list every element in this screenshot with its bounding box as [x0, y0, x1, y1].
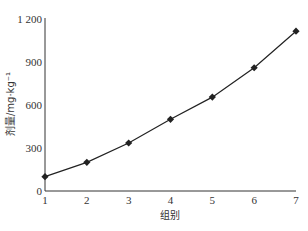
- diamond-marker: [83, 159, 90, 166]
- diamond-marker: [41, 173, 48, 180]
- x-tick-label: 3: [126, 194, 132, 206]
- y-axis-label: 剂量/mg·kg⁻¹: [4, 72, 16, 136]
- data-series: [41, 28, 299, 181]
- y-tick-label: 1 200: [17, 13, 42, 25]
- x-axis: 1234567 组别: [42, 191, 299, 221]
- x-tick-label: 5: [210, 194, 216, 206]
- y-tick-labels: 03006009001 200: [17, 13, 42, 197]
- diamond-marker: [209, 94, 216, 101]
- diamond-marker: [125, 139, 132, 146]
- x-tick-label: 6: [251, 194, 257, 206]
- y-tick-label: 300: [26, 142, 43, 154]
- x-tick-label: 2: [84, 194, 90, 206]
- x-tick-label: 7: [293, 194, 299, 206]
- diamond-marker: [167, 116, 174, 123]
- x-tick-label: 4: [168, 194, 174, 206]
- line-chart: 03006009001 200 剂量/mg·kg⁻¹ 1234567 组别: [0, 0, 308, 231]
- x-tick-labels: 1234567: [42, 194, 299, 206]
- x-axis-label: 组别: [160, 209, 180, 221]
- series-line: [45, 31, 296, 176]
- y-tick-label: 600: [26, 99, 43, 111]
- x-tick-label: 1: [42, 194, 48, 206]
- y-axis: 03006009001 200 剂量/mg·kg⁻¹: [4, 13, 45, 197]
- y-tick-label: 900: [26, 56, 43, 68]
